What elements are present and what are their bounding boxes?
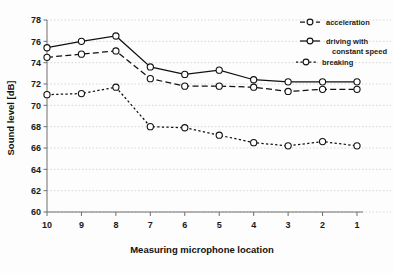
- legend-label-breaking: breaking: [322, 58, 354, 67]
- data-point-marker: [147, 124, 153, 130]
- y-tick-label: 76: [31, 37, 41, 47]
- data-point-marker: [216, 67, 222, 73]
- y-tick-label: 60: [31, 207, 41, 217]
- data-point-marker: [78, 38, 84, 44]
- x-tick-label: 5: [217, 220, 222, 230]
- y-tick-label: 62: [31, 186, 41, 196]
- data-point-marker: [216, 132, 222, 138]
- x-tick-label: 9: [79, 220, 84, 230]
- data-point-marker: [113, 84, 119, 90]
- x-tick-label: 2: [320, 220, 325, 230]
- data-point-marker: [78, 51, 84, 57]
- y-tick-label: 68: [31, 122, 41, 132]
- x-tick-label: 3: [286, 220, 291, 230]
- y-tick-label: 78: [31, 15, 41, 25]
- x-tick-label: 10: [42, 220, 52, 230]
- data-point-marker: [319, 79, 325, 85]
- x-axis-title: Measuring microphone location: [130, 244, 274, 255]
- data-point-marker: [182, 125, 188, 131]
- data-point-marker: [44, 45, 50, 51]
- data-point-marker: [182, 83, 188, 89]
- data-point-marker: [113, 48, 119, 54]
- chart-figure: 60626466687072747678 10987654321 Sound l…: [0, 0, 394, 273]
- x-tick-label: 8: [113, 220, 118, 230]
- data-point-marker: [216, 83, 222, 89]
- y-tick-label: 72: [31, 79, 41, 89]
- data-point-marker: [319, 139, 325, 145]
- x-tick-label: 7: [148, 220, 153, 230]
- x-tick-label: 4: [251, 220, 256, 230]
- y-tick-label: 64: [31, 165, 41, 175]
- y-tick-label: 70: [31, 101, 41, 111]
- data-point-marker: [285, 143, 291, 149]
- y-tick-label: 66: [31, 143, 41, 153]
- legend-label-driving-line2: constant speed: [332, 47, 387, 56]
- y-tick-label: 74: [31, 58, 41, 68]
- line-chart: 60626466687072747678 10987654321 Sound l…: [0, 0, 394, 273]
- legend-label-acceleration: acceleration: [326, 18, 370, 27]
- y-axis-title: Sound level [dB]: [5, 81, 16, 156]
- data-point-marker: [44, 92, 50, 98]
- data-point-marker: [44, 54, 50, 60]
- data-point-marker: [147, 64, 153, 70]
- data-point-marker: [354, 86, 360, 92]
- data-point-marker: [182, 71, 188, 77]
- data-point-marker: [285, 88, 291, 94]
- data-point-marker: [78, 91, 84, 97]
- data-point-marker: [285, 79, 291, 85]
- data-point-marker: [251, 77, 257, 83]
- data-point-marker: [251, 84, 257, 90]
- data-point-marker: [354, 79, 360, 85]
- data-point-marker: [147, 76, 153, 82]
- x-tick-label: 1: [354, 220, 359, 230]
- data-point-marker: [319, 86, 325, 92]
- x-tick-label: 6: [182, 220, 187, 230]
- data-point-marker: [354, 143, 360, 149]
- legend-label-driving-line1: driving with: [326, 37, 369, 46]
- data-point-marker: [113, 33, 119, 39]
- data-point-marker: [251, 140, 257, 146]
